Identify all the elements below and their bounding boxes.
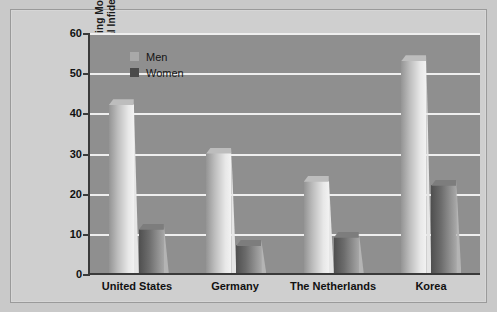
legend-swatch-women — [130, 68, 139, 77]
bar-men-united-states — [109, 104, 134, 273]
chart-figure: Percentage Reporting More Distress over … — [0, 0, 497, 312]
legend-item-men: Men — [130, 49, 184, 64]
bar-slot — [206, 153, 236, 274]
y-tick-label: 50 — [70, 67, 82, 79]
y-tick-mark — [83, 154, 90, 156]
bar-slot — [431, 185, 461, 273]
legend-swatch-men — [130, 52, 139, 61]
legend-label: Men — [146, 51, 167, 63]
y-tick-label: 30 — [70, 148, 82, 160]
bar-slot — [401, 60, 431, 273]
y-tick-mark — [83, 113, 90, 115]
chart-card: Percentage Reporting More Distress over … — [10, 9, 487, 303]
bar-women-korea — [431, 185, 456, 273]
x-axis-label: Korea — [382, 280, 480, 292]
y-tick-mark — [83, 33, 90, 35]
x-axis-label: United States — [88, 280, 186, 292]
gridline: 60 — [90, 33, 480, 35]
y-tick-mark — [83, 234, 90, 236]
gridline: 20 — [90, 194, 480, 196]
y-tick-label: 10 — [70, 228, 82, 240]
chart-legend: MenWomen — [130, 49, 184, 81]
y-tick-mark — [83, 194, 90, 196]
gridline: 30 — [90, 154, 480, 156]
gridline: 40 — [90, 113, 480, 115]
bar-women-germany — [236, 245, 261, 273]
bar-slot — [109, 104, 139, 273]
bar-men-korea — [401, 60, 426, 273]
bar-men-germany — [206, 153, 231, 274]
y-tick-label: 40 — [70, 107, 82, 119]
gridline: 10 — [90, 234, 480, 236]
y-tick-label: 20 — [70, 188, 82, 200]
legend-item-women: Women — [130, 65, 184, 80]
y-tick-label: 0 — [76, 268, 82, 280]
gridline: 0 — [90, 274, 480, 276]
bar-slot — [334, 237, 364, 273]
x-axis-labels: United StatesGermanyThe NetherlandsKorea — [88, 280, 480, 292]
bar-women-the-netherlands — [334, 237, 359, 273]
bar-slot — [236, 245, 266, 273]
legend-label: Women — [146, 67, 184, 79]
y-tick-mark — [83, 73, 90, 75]
x-axis-label: The Netherlands — [284, 280, 382, 292]
y-tick-mark — [83, 274, 90, 276]
x-axis-label: Germany — [186, 280, 284, 292]
plot-area: 0102030405060 MenWomen — [88, 34, 480, 275]
y-tick-label: 60 — [70, 27, 82, 39]
